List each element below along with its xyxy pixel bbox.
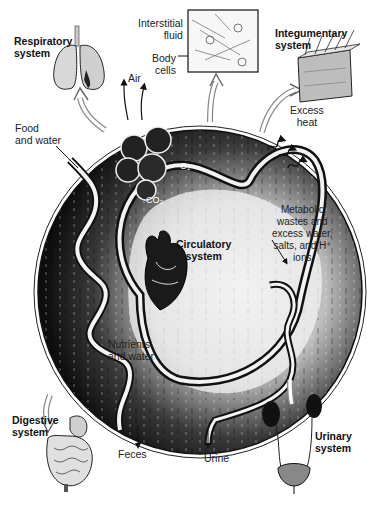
- air-label: Air: [128, 72, 141, 84]
- body-cells-label: Body cells: [152, 52, 176, 76]
- interstitial-fluid-label: Interstitial fluid: [138, 17, 183, 41]
- digestive-system-label: Digestive system: [12, 414, 59, 438]
- urinary-system-label: Urinary system: [315, 430, 352, 454]
- excess-heat-label: Excess heat: [290, 104, 324, 128]
- nutrients-and-water-label: Nutrients and water: [108, 338, 154, 362]
- respiratory-system-label: Respiratory system: [14, 35, 72, 59]
- co2-label: CO₂: [146, 194, 163, 206]
- air-arrows: [124, 82, 144, 120]
- metabolic-wastes-label: Metabolic wastes and excess water, salts…: [272, 204, 333, 264]
- interstitial-cells-box: [188, 10, 258, 72]
- integumentary-system-label: Integumentary system: [275, 27, 347, 51]
- circulatory-system-label: Circulatory system: [176, 238, 231, 262]
- feces-label: Feces: [118, 448, 147, 460]
- food-and-water-label: Food and water: [15, 122, 61, 146]
- urine-label: Urine: [204, 452, 229, 464]
- o2-label: O₂: [180, 160, 191, 172]
